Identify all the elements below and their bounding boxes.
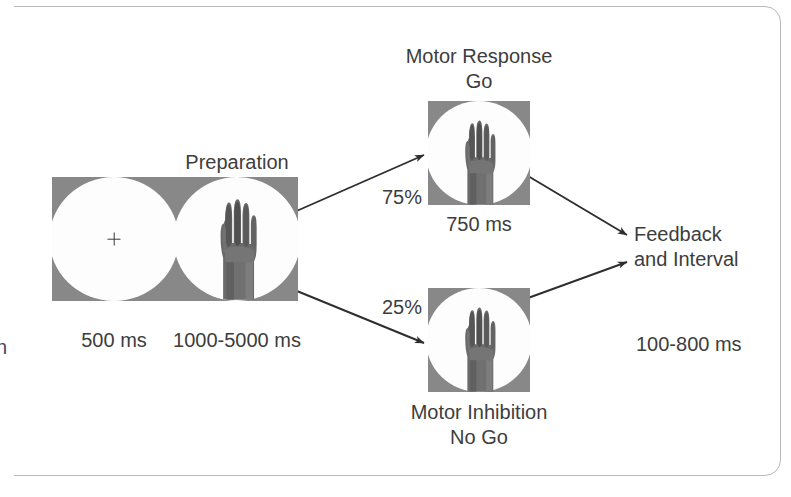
preparation-title-label: Preparation	[185, 150, 288, 175]
hand-open-palm-image	[452, 303, 506, 392]
hand-open-palm-image	[205, 194, 269, 301]
preparation-duration-label: 1000-5000 ms	[173, 328, 301, 353]
feedback-title-line2: and Interval	[634, 247, 739, 272]
fixation-cross-stimulus	[52, 177, 176, 301]
go-title-label: Motor Response Go	[406, 44, 553, 94]
arrow-nogo-to-feedback	[528, 262, 627, 298]
clipped-left-edge-text: n	[0, 336, 7, 359]
feedback-title-label: Feedback and Interval	[634, 222, 739, 272]
go-duration-label: 750 ms	[446, 212, 512, 237]
nogo-title-line1: Motor Inhibition	[411, 400, 548, 425]
nogo-title-line2: No Go	[411, 425, 548, 450]
arrow-go-to-feedback	[528, 176, 627, 235]
nogo-probability-label: 25%	[382, 295, 422, 320]
go-probability-label: 75%	[382, 185, 422, 210]
fixation-duration-label: 500 ms	[81, 328, 147, 353]
go-title-line2: Go	[406, 69, 553, 94]
nogo-title-label: Motor Inhibition No Go	[411, 400, 548, 450]
plus-cross-icon	[108, 233, 121, 246]
nogo-hand-stimulus	[428, 288, 530, 392]
hand-open-palm-image	[452, 116, 506, 205]
go-hand-stimulus	[428, 101, 530, 205]
preparation-hand-stimulus	[176, 177, 298, 301]
feedback-duration-label: 100-800 ms	[636, 332, 742, 357]
go-title-line1: Motor Response	[406, 44, 553, 69]
go-nogo-paradigm-figure: Preparation Motor Response Go 750 ms Mot…	[0, 0, 791, 497]
feedback-title-line1: Feedback	[634, 222, 739, 247]
